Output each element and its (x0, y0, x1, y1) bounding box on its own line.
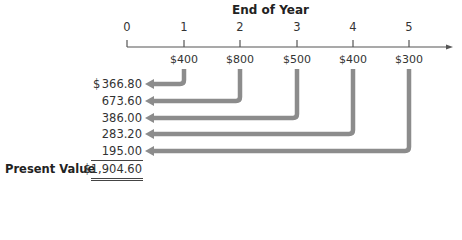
double-underline-top (91, 178, 143, 179)
present-value-year-2: 673.60 (62, 94, 142, 108)
arrowhead-icon (145, 146, 154, 156)
cash-flow-year-3: $500 (283, 53, 311, 66)
present-value-year-1: 366.80 (62, 77, 142, 91)
discount-arrow-year-3 (152, 69, 297, 118)
cash-flow-year-2: $800 (226, 53, 254, 66)
arrowhead-icon (145, 129, 154, 139)
cash-flow-year-5: $300 (395, 53, 423, 66)
present-value-total: $1,904.60 (62, 162, 142, 176)
arrowhead-icon (145, 79, 154, 89)
arrowhead-icon (145, 96, 154, 106)
arrowhead-icon (145, 113, 154, 123)
discount-arrow-year-5 (152, 69, 409, 151)
double-underline-bottom (91, 180, 143, 181)
cash-flow-year-4: $400 (339, 53, 367, 66)
timeline-axis (127, 40, 450, 47)
axis-arrowhead-icon (446, 45, 453, 50)
discount-arrow-year-1 (152, 69, 184, 84)
sum-line (91, 160, 143, 161)
present-value-year-4: 283.20 (62, 127, 142, 141)
cash-flow-year-1: $400 (170, 53, 198, 66)
present-value-year-3: 386.00 (62, 111, 142, 125)
present-value-year-5: 195.00 (62, 144, 142, 158)
